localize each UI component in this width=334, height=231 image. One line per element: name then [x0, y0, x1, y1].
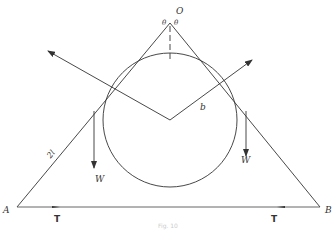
label-rod-length: 2l	[44, 148, 57, 161]
tension-arrow-left	[52, 206, 60, 208]
statics-diagram: O θ θ A B 2l b W W T T Fig. 10	[0, 0, 334, 231]
rod-OB	[170, 23, 320, 207]
label-apex-O: O	[176, 6, 184, 16]
label-theta-left: θ	[162, 19, 167, 27]
figure-caption: Fig. 10	[158, 222, 178, 230]
label-weight-left: W	[95, 174, 105, 184]
rod-OA	[17, 23, 170, 207]
label-radius-b: b	[200, 102, 206, 112]
triangle-frame	[17, 23, 320, 207]
normal-force-right	[170, 60, 252, 120]
label-tension-right: T	[271, 214, 278, 224]
tension-arrow-right	[277, 206, 285, 208]
label-vertex-A: A	[2, 205, 10, 215]
label-tension-left: T	[54, 214, 61, 224]
normal-force-left	[48, 51, 170, 120]
label-theta-right: θ	[174, 19, 179, 27]
label-weight-right: W	[241, 155, 251, 165]
label-vertex-B: B	[324, 205, 332, 215]
